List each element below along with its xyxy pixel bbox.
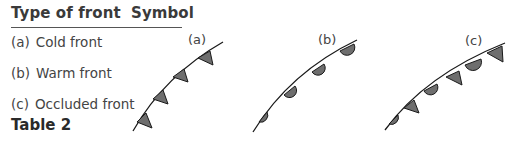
cold-front-symbol-icon <box>133 42 223 131</box>
front-symbols-diagram <box>0 0 517 153</box>
warm-front-symbol-icon <box>253 40 357 132</box>
occluded-front-symbol-icon <box>385 43 505 130</box>
